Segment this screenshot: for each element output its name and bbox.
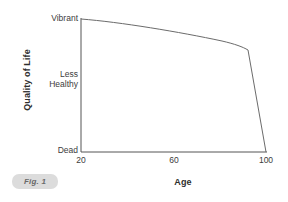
x-axis-title: Age bbox=[143, 177, 223, 187]
y-tick-label-vibrant: Vibrant bbox=[8, 13, 78, 23]
quality-of-life-curve bbox=[81, 19, 266, 152]
x-tick-label-100: 100 bbox=[246, 155, 286, 165]
y-tick-label-less-healthy: Less Healthy bbox=[8, 69, 78, 89]
y-tick-label-less-healthy-line2: Healthy bbox=[8, 79, 78, 89]
y-tick-label-less-healthy-line1: Less bbox=[8, 69, 78, 79]
x-tick-label-20: 20 bbox=[61, 155, 101, 165]
x-tick-label-60: 60 bbox=[154, 155, 194, 165]
chart-plot bbox=[0, 0, 288, 202]
y-tick-label-dead: Dead bbox=[8, 145, 78, 155]
figure-container: Quality of Life Vibrant Less Healthy Dea… bbox=[0, 0, 288, 202]
figure-caption-badge: Fig. 1 bbox=[12, 174, 58, 189]
